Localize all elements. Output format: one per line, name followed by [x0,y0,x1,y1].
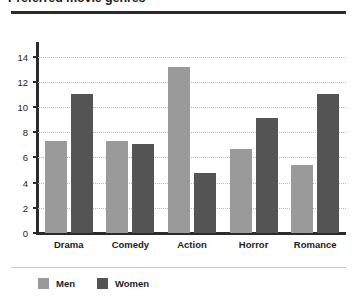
bar-comedy-women[interactable] [132,144,154,233]
bottom-divider [11,267,346,268]
title-divider [11,11,346,14]
y-axis-tick-label: 12 [17,76,28,87]
legend-label-men: Men [56,278,75,289]
x-axis-label-romance: Romance [284,239,346,250]
bar-romance-women[interactable] [317,94,339,233]
y-axis-tick-label: 6 [23,152,28,163]
y-axis-tick-label: 2 [23,202,28,213]
bar-group [291,44,339,233]
bar-drama-women[interactable] [71,94,93,233]
bar-group [106,44,154,233]
y-axis-tick [33,182,38,184]
y-axis-tick-label: 8 [23,127,28,138]
x-axis-label-drama: Drama [38,239,100,250]
legend-swatch-women [97,278,108,289]
y-axis-tick-label: 10 [17,102,28,113]
y-axis-tick [33,156,38,158]
bar-group [45,44,93,233]
y-axis-tick-label: 4 [23,177,28,188]
bar-drama-men[interactable] [45,141,67,233]
bar-action-women[interactable] [194,173,216,233]
y-axis-tick [33,232,38,234]
y-axis-tick [33,56,38,58]
bar-horror-men[interactable] [230,149,252,233]
chart-legend: MenWomen [38,278,149,289]
y-axis-tick [33,81,38,83]
bar-romance-men[interactable] [291,165,313,233]
x-axis-label-comedy: Comedy [100,239,162,250]
bar-action-men[interactable] [168,67,190,233]
y-axis-tick [33,106,38,108]
legend-item-women[interactable]: Women [97,278,149,289]
bar-comedy-men[interactable] [106,141,128,233]
y-axis-tick [33,207,38,209]
chart-card: Preferred movie genres 02468101214 MenWo… [0,0,357,301]
y-axis-tick-label: 14 [17,51,28,62]
x-axis-label-action: Action [161,239,223,250]
legend-label-women: Women [115,278,149,289]
legend-swatch-men [38,278,49,289]
bar-group [230,44,278,233]
plot-area [38,44,346,233]
bar-group [168,44,216,233]
bar-horror-women[interactable] [256,118,278,233]
x-axis-label-horror: Horror [223,239,285,250]
legend-item-men[interactable]: Men [38,278,75,289]
chart-title: Preferred movie genres [8,0,145,5]
y-axis-tick-label: 0 [23,228,28,239]
y-axis-tick [33,131,38,133]
y-axis-tick-labels: 02468101214 [0,0,28,301]
